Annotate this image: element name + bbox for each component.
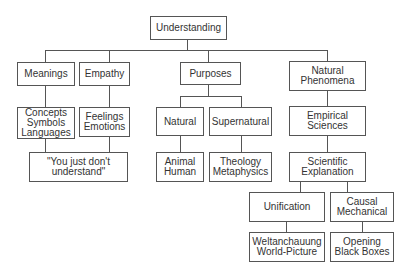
node-feelings: Feelings Emotions bbox=[79, 107, 130, 137]
node-empirical-sciences: Empirical Sciences bbox=[289, 106, 366, 136]
edge-root-bus bbox=[45, 50, 328, 51]
node-theology-metaphysics: Theology Metaphysics bbox=[209, 152, 272, 182]
edge-root-down bbox=[187, 39, 188, 50]
node-natural: Natural bbox=[156, 107, 204, 136]
node-unification: Unification bbox=[249, 192, 325, 222]
edge-scientific-unification bbox=[300, 181, 301, 192]
node-weltanschauung: Weltanchauung World-Picture bbox=[249, 232, 325, 262]
node-meanings: Meanings bbox=[17, 62, 75, 86]
edge-empirical-scientific bbox=[327, 135, 328, 152]
node-opening-black-boxes: Opening Black Boxes bbox=[330, 232, 394, 262]
node-you-just-dont-understand: "You just don't understand" bbox=[29, 152, 128, 182]
edge-to-natural-phenomena bbox=[327, 50, 328, 61]
edge-purposes-bus bbox=[180, 96, 242, 97]
edge-empathy-feelings bbox=[109, 85, 110, 107]
edge-to-meanings bbox=[45, 50, 46, 62]
node-scientific-explanation: Scientific Explanation bbox=[289, 152, 366, 182]
edge-phenomena-empirical bbox=[327, 90, 328, 106]
edge-unification-welt bbox=[286, 221, 287, 232]
node-understanding: Understanding bbox=[150, 16, 227, 40]
edge-supernatural-theology bbox=[241, 135, 242, 152]
edge-to-natural bbox=[180, 96, 181, 107]
node-supernatural: Supernatural bbox=[209, 107, 272, 136]
node-natural-phenomena: Natural Phenomena bbox=[289, 61, 366, 91]
edge-to-supernatural bbox=[241, 96, 242, 107]
node-causal-mechanical: Causal Mechanical bbox=[330, 192, 394, 222]
node-purposes: Purposes bbox=[180, 62, 241, 85]
edge-feelings-ujdu bbox=[109, 136, 110, 152]
edge-to-empathy bbox=[109, 50, 110, 62]
edge-causal-opening bbox=[362, 221, 363, 232]
edge-natural-animal bbox=[180, 135, 181, 152]
edge-to-purposes bbox=[208, 50, 209, 62]
node-concepts: Concepts Symbols Languages bbox=[17, 107, 75, 139]
edge-purposes-down bbox=[208, 84, 209, 96]
node-animal-human: Animal Human bbox=[156, 152, 204, 182]
edge-meanings-concepts bbox=[45, 85, 46, 107]
edge-concepts-ujdu bbox=[45, 138, 46, 152]
edge-scientific-causal bbox=[347, 181, 348, 192]
node-empathy: Empathy bbox=[79, 62, 130, 86]
